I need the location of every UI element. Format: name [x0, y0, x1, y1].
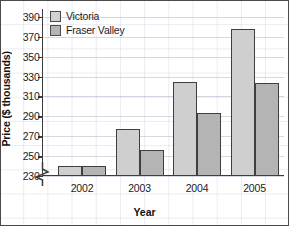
bar-victoria-2004	[173, 82, 197, 176]
x-axis-tick-label: 2002	[71, 182, 94, 194]
x-axis-tick-label: 2003	[128, 182, 151, 194]
y-axis-line	[42, 9, 43, 176]
chart-legend: Victoria Fraser Valley	[50, 10, 124, 36]
y-axis-tick-label: 310	[23, 90, 40, 102]
legend-swatch-fraser-valley	[50, 25, 61, 36]
x-axis-tick-label: 2005	[243, 182, 266, 194]
y-axis-tick-label: 290	[23, 110, 40, 122]
legend-item-fraser-valley: Fraser Valley	[50, 24, 124, 36]
y-axis-tick-label: 370	[23, 31, 40, 43]
bar-victoria-2005	[231, 29, 255, 176]
bar-fraser-valley-2002	[82, 166, 106, 176]
legend-label-fraser-valley: Fraser Valley	[66, 24, 124, 36]
y-axis-title: Price ($ thousands)	[0, 51, 14, 147]
x-axis-title: Year	[1, 206, 288, 218]
y-axis-tick-label: 390	[23, 11, 40, 23]
bar-victoria-2003	[116, 129, 140, 176]
bar-fraser-valley-2005	[255, 83, 279, 176]
bar-chart-figure: Price ($ thousands) Victoria Fraser Vall…	[0, 0, 289, 226]
legend-item-victoria: Victoria	[50, 10, 124, 22]
gridline	[43, 176, 284, 177]
legend-swatch-victoria	[50, 11, 61, 22]
bar-fraser-valley-2004	[197, 113, 221, 176]
y-axis-tick-label: 350	[23, 51, 40, 63]
axis-break-icon	[34, 161, 50, 187]
legend-label-victoria: Victoria	[66, 10, 99, 22]
bar-fraser-valley-2003	[140, 150, 164, 176]
bar-victoria-2002	[58, 166, 82, 176]
y-axis-tick-label: 330	[23, 70, 40, 82]
x-axis-tick-label: 2004	[186, 182, 209, 194]
y-axis-tick-label: 270	[23, 130, 40, 142]
